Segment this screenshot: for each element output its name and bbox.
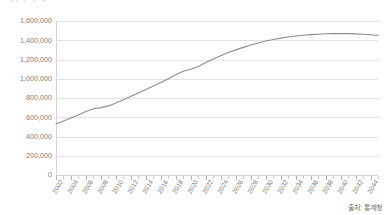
chart-container: 가구수 추계 0200,000400,000600,000800,0001,00…: [0, 0, 388, 215]
x-axis-label: 2030: [261, 179, 274, 195]
x-axis-label: 2042: [351, 179, 364, 195]
y-axis-label: 1,000,000: [0, 75, 52, 82]
x-axis-label: 2008: [97, 179, 110, 195]
x-axis-label: 2004: [67, 179, 80, 195]
x-axis-label: 2032: [276, 179, 289, 195]
y-axis-label: 200,000: [0, 152, 52, 159]
x-axis-label: 2026: [231, 179, 244, 195]
x-axis-label: 2006: [82, 179, 95, 195]
x-axis-label: 2044: [366, 179, 379, 195]
x-axis-label: 2024: [216, 179, 229, 195]
x-axis-label: 2034: [291, 179, 304, 195]
y-axis-label: 800,000: [0, 94, 52, 101]
x-axis-label-group: 2002200420062008201020122014201620182020…: [56, 179, 386, 209]
x-axis-label: 2014: [142, 179, 155, 195]
y-axis-label: 0: [0, 171, 52, 178]
y-axis-label: 600,000: [0, 114, 52, 121]
y-axis-label: 1,200,000: [0, 56, 52, 63]
x-axis-label: 2020: [186, 179, 199, 195]
y-axis-label: 1,400,000: [0, 37, 52, 44]
y-axis-label-group: 0200,000400,000600,000800,0001,000,0001,…: [0, 0, 52, 215]
x-axis-label: 2040: [336, 179, 349, 195]
y-axis-label: 1,600,000: [0, 17, 52, 24]
x-axis-label: 2002: [52, 179, 65, 195]
x-axis-label: 2018: [171, 179, 184, 195]
plot-area: [56, 21, 378, 175]
x-axis-label: 2016: [156, 179, 169, 195]
y-axis-label: 400,000: [0, 133, 52, 140]
line-series-path: [56, 34, 378, 124]
x-axis-label: 2010: [112, 179, 125, 195]
x-axis-label: 2028: [246, 179, 259, 195]
line-series-svg: [56, 21, 378, 175]
x-axis-label: 2022: [201, 179, 214, 195]
x-axis-label: 2012: [127, 179, 140, 195]
x-axis-label: 2038: [321, 179, 334, 195]
source-note: 출처: 통계청: [348, 204, 382, 212]
x-axis-label: 2036: [306, 179, 319, 195]
